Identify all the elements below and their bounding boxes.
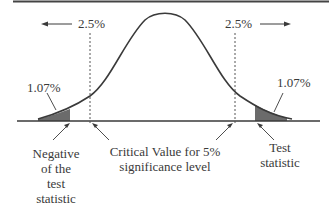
right-pvalue-label: 1.07% [277, 75, 311, 90]
negative-test-statistic-label: Negative of the test statistic [22, 146, 90, 206]
test-statistic-label: Test statistic [252, 140, 308, 170]
right-arrow-icon [260, 22, 291, 27]
test-stat-pointer [257, 123, 274, 140]
critical-right-pointer [216, 123, 233, 140]
right-pvalue-leader [274, 93, 283, 112]
right-tail-label: 2.5% [225, 16, 252, 31]
critical-value-label: Critical Value for 5% significance level [100, 144, 230, 174]
neg-stat-pointer [53, 123, 70, 140]
left-tail-label: 2.5% [78, 16, 105, 31]
left-pvalue-label: 1.07% [27, 80, 61, 95]
left-arrow-icon [41, 22, 72, 27]
critical-left-pointer [92, 123, 109, 140]
left-tail-shade [38, 109, 70, 121]
bell-curve [38, 13, 292, 119]
left-pvalue-leader [47, 93, 56, 110]
